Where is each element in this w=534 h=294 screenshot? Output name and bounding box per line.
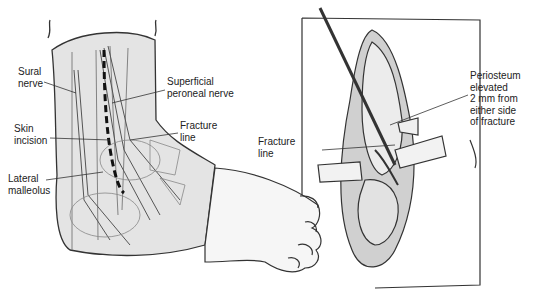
- label-fracture-line-right: Fracture line: [258, 136, 295, 159]
- label-periosteum: Periosteum elevated 2 mm from either sid…: [470, 70, 521, 128]
- foot-illustration: [205, 168, 321, 272]
- label-skin-incision: Skin incision: [14, 123, 47, 146]
- label-lateral-malleolus: Lateral malleolus: [8, 173, 50, 196]
- label-fracture-line-left: Fracture line: [180, 120, 217, 143]
- surgical-exposure-illustration: [302, 8, 480, 288]
- label-superficial-peroneal-nerve: Superficial peroneal nerve: [167, 76, 234, 99]
- label-sural-nerve: Sural nerve: [18, 66, 43, 89]
